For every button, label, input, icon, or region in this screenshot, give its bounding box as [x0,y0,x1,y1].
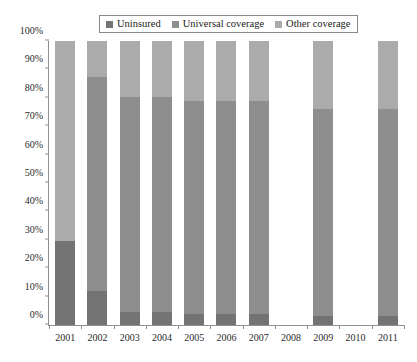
x-tick-mark [404,325,405,329]
bar-segment[interactable] [152,312,172,325]
bar-segment[interactable] [87,291,107,325]
bar-segment[interactable] [249,41,269,101]
legend-item-universal-coverage: Universal coverage [172,18,264,30]
legend-label-other-coverage: Other coverage [286,18,350,30]
x-tick-mark [49,325,50,329]
y-tick-label: 40% [25,195,49,206]
bar-segment[interactable] [120,312,140,325]
y-tick-mark [45,96,49,97]
bar-column[interactable] [184,41,204,325]
bar-segment[interactable] [313,109,333,316]
bar-column[interactable] [55,41,75,325]
bar-segment[interactable] [87,41,107,77]
bar-segment[interactable] [378,41,398,109]
x-tick-mark [339,325,340,329]
x-tick-label: 2010 [346,332,366,343]
x-tick-mark [307,325,308,329]
bar-column[interactable] [216,41,236,325]
y-tick-label: 100% [20,25,49,36]
y-tick-mark [45,125,49,126]
bar-column[interactable] [87,41,107,325]
y-tick-mark [45,182,49,183]
bar-segment[interactable] [184,314,204,325]
y-tick-label: 30% [25,223,49,234]
y-tick-label: 0% [30,309,49,320]
bar-segment[interactable] [120,97,140,312]
x-tick-mark [178,325,179,329]
bar-segment[interactable] [120,41,140,97]
x-tick-label: 2001 [55,332,75,343]
x-tick-label: 2003 [120,332,140,343]
x-tick-mark [243,325,244,329]
x-tick-label: 2006 [217,332,237,343]
bar-segment[interactable] [216,101,236,314]
x-tick-label: 2007 [249,332,269,343]
bar-segment[interactable] [216,314,236,325]
legend-label-universal-coverage: Universal coverage [183,18,264,30]
x-tick-mark [114,325,115,329]
bar-column[interactable] [313,41,333,325]
bar-column[interactable] [346,41,366,325]
bar-segment[interactable] [249,314,269,325]
y-tick-label: 90% [25,53,49,64]
bar-segment[interactable] [216,41,236,101]
bar-segment[interactable] [378,109,398,316]
bar-column[interactable] [281,41,301,325]
y-tick-mark [45,267,49,268]
bar-segment[interactable] [152,97,172,312]
y-tick-label: 80% [25,81,49,92]
bar-segment[interactable] [152,41,172,97]
bar-segment[interactable] [87,77,107,291]
bar-segment[interactable] [184,101,204,314]
bar-column[interactable] [120,41,140,325]
x-tick-mark [146,325,147,329]
bar-segment[interactable] [55,241,75,325]
x-tick-mark [210,325,211,329]
y-tick-label: 50% [25,167,49,178]
x-tick-label: 2002 [87,332,107,343]
bar-segment[interactable] [55,41,75,241]
x-tick-label: 2011 [378,332,398,343]
legend-item-uninsured: Uninsured [106,18,161,30]
chart-legend: Uninsured Universal coverage Other cover… [99,15,358,33]
bar-segment[interactable] [313,316,333,325]
legend-item-other-coverage: Other coverage [275,18,350,30]
y-tick-mark [45,210,49,211]
y-tick-label: 20% [25,252,49,263]
chart-plot-area: 0%10%20%30%40%50%60%70%80%90%100% 200120… [48,41,404,326]
y-tick-label: 70% [25,110,49,121]
y-tick-mark [45,68,49,69]
y-tick-label: 60% [25,138,49,149]
bar-segment[interactable] [184,41,204,101]
legend-swatch-universal-coverage [172,21,179,28]
legend-swatch-uninsured [106,21,113,28]
y-tick-mark [45,295,49,296]
x-tick-label: 2008 [281,332,301,343]
y-tick-mark [45,153,49,154]
x-tick-label: 2005 [184,332,204,343]
x-tick-mark [275,325,276,329]
bar-column[interactable] [152,41,172,325]
x-tick-label: 2004 [152,332,172,343]
bar-column[interactable] [378,41,398,325]
y-tick-mark [45,40,49,41]
legend-label-uninsured: Uninsured [117,18,161,30]
x-tick-mark [372,325,373,329]
x-tick-label: 2009 [313,332,333,343]
bar-segment[interactable] [313,41,333,109]
bar-segment[interactable] [249,101,269,314]
y-tick-mark [45,238,49,239]
legend-swatch-other-coverage [275,21,282,28]
bar-segment[interactable] [378,316,398,325]
y-tick-label: 10% [25,280,49,291]
x-tick-mark [81,325,82,329]
bar-column[interactable] [249,41,269,325]
